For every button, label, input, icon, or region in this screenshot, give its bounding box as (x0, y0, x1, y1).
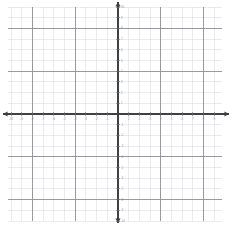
x-axis-tick-label: -10 (9, 117, 13, 121)
coordinate-grid-figure: -10-9-8-7-6-5-4-3-2-1123456789 109876543… (0, 0, 233, 225)
y-axis-tick-label: -10 (121, 219, 125, 223)
plot-background (0, 0, 233, 225)
coordinate-grid-canvas: -10-9-8-7-6-5-4-3-2-1123456789 109876543… (0, 0, 233, 225)
